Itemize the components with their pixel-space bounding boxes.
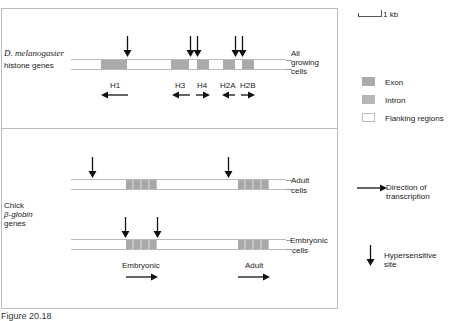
panel-divider [1, 128, 338, 129]
legend-direction-line1: Direction of [386, 183, 426, 192]
histone-organism-label: D. melanogaster [4, 49, 64, 58]
scale-bar-label: 1 kb [383, 10, 398, 19]
adult-gene-block [238, 240, 269, 249]
gene-label-h1: H1 [110, 81, 120, 90]
arrow-left-icon [101, 91, 129, 99]
arrow-right-icon [241, 91, 255, 99]
hypersensitive-site-icon [224, 157, 233, 179]
gene-label-h3: H3 [175, 81, 185, 90]
direction-of-transcription-icon [357, 184, 387, 192]
legend-swatch-flanking [362, 113, 375, 122]
gene-label-h2b: H2B [240, 81, 256, 90]
histone-genes-label: histone genes [4, 61, 54, 70]
globin-locus-embryonic-cells [71, 239, 286, 250]
embryonic-cells-label-line2: cells [292, 246, 308, 255]
embryonic-cells-label-line1: Embryonic [290, 236, 328, 245]
hypersensitive-site-icon [121, 217, 130, 239]
hypersensitive-site-icon [88, 157, 97, 179]
globin-label-line1: Chick [4, 201, 24, 210]
hypersensitive-site-icon [193, 36, 202, 58]
gene-label-embryonic: Embryonic [122, 261, 160, 270]
legend-swatch-intron [362, 95, 375, 104]
hypersensitive-site-legend-icon [366, 245, 375, 267]
adult-gene-block [238, 180, 269, 189]
arrow-right-icon [196, 91, 210, 99]
adult-cells-label-line1: Adult [291, 176, 309, 185]
condition-label-line2: growing [291, 58, 319, 67]
legend-label-flanking: Flanking regions [385, 114, 444, 123]
exon-h3 [171, 60, 189, 69]
arrow-left-icon [222, 91, 235, 99]
globin-locus-adult-cells [71, 179, 286, 190]
condition-label-line3: cells [291, 67, 307, 76]
gene-label-h4: H4 [197, 81, 207, 90]
hypersensitive-site-icon [123, 36, 132, 58]
gene-label-adult: Adult [245, 261, 263, 270]
embryonic-gene-block [126, 180, 157, 189]
gene-label-h2a: H2A [220, 81, 236, 90]
exon-h2b [242, 60, 254, 69]
exon-h1 [101, 60, 127, 69]
arrow-right-icon [238, 273, 270, 281]
arrow-right-icon [126, 273, 158, 281]
condition-label-line1: All [291, 49, 300, 58]
globin-label-line3: genes [4, 219, 26, 228]
globin-label-line2: β-globin [4, 210, 33, 219]
legend-hypersensitive-line2: site [384, 260, 396, 269]
exon-h4 [197, 60, 209, 69]
figure-caption: Figure 20.18 [1, 312, 52, 321]
adult-cells-label-line2: cells [291, 186, 307, 195]
histone-gene-cluster [71, 59, 286, 70]
arrow-left-icon [172, 91, 190, 99]
legend-direction-line2: transcription [386, 192, 430, 201]
legend-hypersensitive-line1: Hypersensitive [384, 251, 436, 260]
hypersensitive-site-icon [153, 217, 162, 239]
exon-h2a [223, 60, 235, 69]
embryonic-gene-block [126, 240, 157, 249]
legend-swatch-exon [362, 77, 375, 86]
legend-label-intron: Intron [385, 96, 405, 105]
hypersensitive-site-icon [238, 36, 247, 58]
legend-label-exon: Exon [385, 78, 403, 87]
